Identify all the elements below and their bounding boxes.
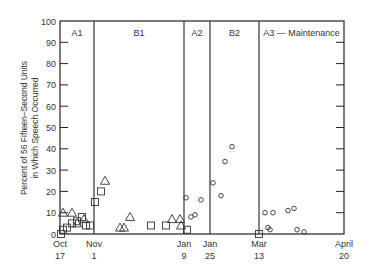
y-axis-label-line2: in Which Speech Occurred	[30, 77, 40, 178]
circle-marker	[199, 198, 204, 203]
chart: Percent of 56 Fifteen–Second Units in Wh…	[0, 0, 370, 274]
circle-marker	[263, 210, 268, 215]
y-axis-ticks: 0102030405060708090100	[41, 17, 344, 240]
phase-label: B2	[229, 28, 240, 38]
x-tick-label-day: 25	[205, 251, 215, 261]
y-tick-label: 10	[46, 208, 56, 218]
data-points	[58, 144, 307, 237]
y-tick-label: 40	[46, 144, 56, 154]
square-marker	[92, 199, 99, 206]
x-tick-label-month: April	[335, 239, 353, 249]
square-marker	[148, 222, 155, 229]
triangle-marker	[168, 215, 177, 223]
circle-marker	[219, 193, 224, 198]
x-tick-label-month: Oct	[53, 239, 68, 249]
circle-marker	[292, 206, 297, 211]
triangle-marker	[176, 215, 185, 223]
circle-marker	[295, 227, 300, 232]
circle-marker	[223, 159, 228, 164]
phase-label: B1	[133, 28, 144, 38]
phase-label: A1	[71, 28, 82, 38]
x-tick-label-day: 20	[339, 251, 349, 261]
x-axis-ticks: Oct17Nov1Jan9Jan25Mar13April20	[53, 239, 353, 261]
circle-marker	[211, 181, 216, 186]
phase-label: A3 — Maintenance	[263, 28, 340, 38]
x-tick-label-month: Jan	[203, 239, 218, 249]
triangle-marker	[68, 208, 77, 216]
circle-marker	[271, 210, 276, 215]
x-tick-label-day: 17	[55, 251, 65, 261]
y-tick-label: 100	[41, 17, 56, 27]
circle-marker	[230, 144, 235, 149]
y-tick-label: 50	[46, 123, 56, 133]
y-axis-label-line1: Percent of 56 Fifteen–Second Units	[19, 61, 29, 195]
y-tick-label: 60	[46, 102, 56, 112]
x-tick-label-month: Nov	[86, 239, 103, 249]
y-tick-label: 70	[46, 80, 56, 90]
y-tick-label: 30	[46, 166, 56, 176]
x-tick-label-day: 9	[181, 251, 186, 261]
phase-dividers: A1B1A2B2A3 — Maintenance	[71, 21, 339, 234]
y-tick-label: 90	[46, 38, 56, 48]
x-tick-label-day: 1	[91, 251, 96, 261]
y-tick-label: 20	[46, 187, 56, 197]
phase-label: A2	[191, 28, 202, 38]
triangle-marker	[126, 212, 135, 220]
circle-marker	[286, 208, 291, 213]
triangle-marker	[101, 176, 110, 184]
y-axis-label: Percent of 56 Fifteen–Second Units in Wh…	[19, 61, 40, 195]
x-tick-label-month: Jan	[177, 239, 192, 249]
x-tick-label-month: Mar	[251, 239, 267, 249]
y-tick-label: 80	[46, 59, 56, 69]
x-tick-label-day: 13	[254, 251, 264, 261]
square-marker	[98, 188, 105, 195]
circle-marker	[193, 213, 198, 218]
y-tick-label: 0	[51, 230, 56, 240]
